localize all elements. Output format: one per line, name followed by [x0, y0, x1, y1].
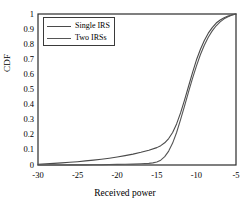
x-tick-label: -5 [221, 170, 250, 180]
y-tick-label: 0.7 [8, 54, 34, 64]
x-axis-label: Received power [0, 188, 250, 198]
cdf-chart-figure: CDF Received power 00.10.20.30.40.50.60.… [0, 0, 250, 205]
legend-label-two-irss: Two IRSs [75, 33, 107, 43]
y-tick-label: 0.8 [8, 39, 34, 49]
legend-line-single-irs [47, 26, 71, 27]
y-tick-label: 0.2 [8, 129, 34, 139]
y-tick-label: 0.9 [8, 24, 34, 34]
legend-item-two-irss: Two IRSs [47, 32, 111, 44]
y-tick-label: 0.6 [8, 69, 34, 79]
y-tick-label: 0.3 [8, 114, 34, 124]
y-tick-label: 0.4 [8, 99, 34, 109]
legend-label-single-irs: Single IRS [75, 21, 110, 31]
x-tick-label: -15 [142, 170, 172, 180]
y-tick-label: 1 [8, 9, 34, 19]
x-tick-label: -30 [23, 170, 53, 180]
x-tick-label: -20 [102, 170, 132, 180]
chart-legend: Single IRS Two IRSs [43, 17, 115, 46]
legend-item-single-irs: Single IRS [47, 20, 111, 32]
legend-line-two-irss [47, 38, 71, 39]
y-tick-label: 0.5 [8, 84, 34, 94]
x-tick-label: -10 [181, 170, 211, 180]
y-tick-label: 0 [8, 160, 34, 170]
y-tick-label: 0.1 [8, 144, 34, 154]
x-tick-label: -25 [63, 170, 93, 180]
